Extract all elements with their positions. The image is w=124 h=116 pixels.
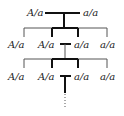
gen3-label-3: a/a xyxy=(74,71,89,82)
gen2-label-2: A/a xyxy=(37,39,55,50)
pedigree-diagram: A/a a/a A/a A/a a/a a/a A/a A/a a/a a/a xyxy=(0,0,124,116)
gen2-label-4: a/a xyxy=(100,39,115,50)
gen2-label-1: A/a xyxy=(7,39,25,50)
gen1-parent-right-label: a/a xyxy=(83,7,98,18)
gen3-label-2: A/a xyxy=(37,71,55,82)
gen3-label-4: a/a xyxy=(100,71,115,82)
gen2-label-3: a/a xyxy=(74,39,89,50)
gen1-parent-left-label: A/a xyxy=(26,7,44,18)
gen3-label-1: A/a xyxy=(7,71,25,82)
